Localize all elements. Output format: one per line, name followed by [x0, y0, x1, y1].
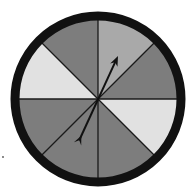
- spinner-diagram: [0, 0, 195, 191]
- stray-dot: [2, 156, 4, 158]
